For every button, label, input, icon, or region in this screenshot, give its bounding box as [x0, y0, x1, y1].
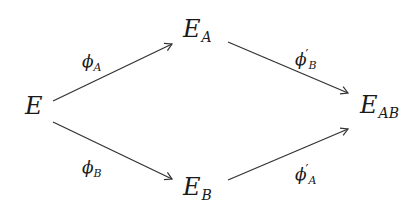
node-e-ab-sub: AB: [379, 105, 399, 121]
node-e-b-base: E: [183, 173, 201, 201]
node-e-a-sub: A: [202, 29, 212, 45]
label-phi-prime-b-base: ϕ: [295, 49, 307, 69]
label-phi-prime-b-sub: B: [309, 59, 317, 72]
node-e-b-sub: B: [202, 187, 212, 203]
node-e-b: EB: [183, 175, 212, 202]
node-e-a-base: E: [183, 15, 201, 43]
label-phi-a: ϕA: [82, 53, 102, 73]
arrow-phi-a: [53, 44, 172, 101]
label-phi-a-sub: A: [94, 61, 102, 74]
node-e: E: [25, 94, 43, 118]
label-phi-prime-a-sub: A: [309, 174, 317, 187]
node-e-a: EA: [183, 17, 212, 44]
arrow-phi-prime-b: [228, 42, 348, 93]
node-e-base: E: [25, 92, 43, 120]
label-phi-prime-b: ϕ′B: [295, 48, 317, 71]
label-phi-prime-a: ϕ′A: [295, 163, 317, 186]
commutative-diagram: E EA EB EAB ϕA ϕB ϕ′B ϕ′A: [0, 0, 420, 213]
label-phi-prime-a-base: ϕ: [295, 164, 307, 184]
node-e-ab: EAB: [360, 93, 399, 120]
label-phi-b-base: ϕ: [82, 157, 94, 177]
node-e-ab-base: E: [360, 91, 378, 119]
arrow-phi-prime-a: [228, 129, 348, 180]
label-phi-b: ϕB: [82, 159, 102, 179]
label-phi-a-base: ϕ: [82, 51, 94, 71]
label-phi-b-sub: B: [94, 167, 102, 180]
arrow-phi-b: [53, 122, 172, 179]
